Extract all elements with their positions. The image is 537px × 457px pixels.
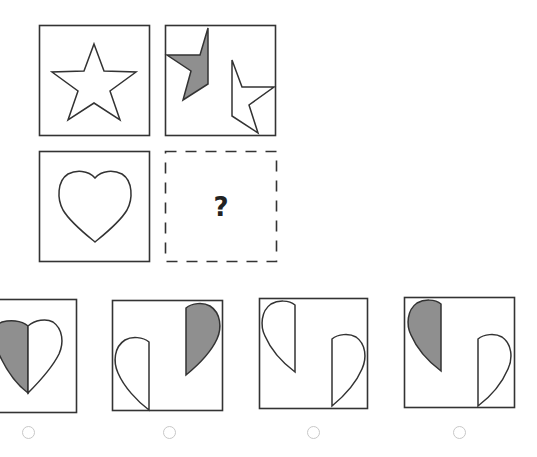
puzzle-stage: ? [0, 0, 537, 457]
grid-cell-star-split [166, 26, 276, 136]
option-3-radio[interactable] [307, 426, 320, 439]
option-2-radio[interactable] [163, 426, 176, 439]
grid-cell-heart-whole [40, 152, 150, 262]
grid-cell-star-whole [40, 26, 150, 136]
option-1-radio[interactable] [22, 426, 35, 439]
option-1-card[interactable] [0, 298, 78, 414]
option-2-card[interactable] [111, 299, 224, 412]
question-mark: ? [165, 151, 277, 262]
option-3-card[interactable] [258, 297, 369, 410]
option-4-radio[interactable] [453, 426, 466, 439]
option-4-card[interactable] [403, 296, 516, 409]
